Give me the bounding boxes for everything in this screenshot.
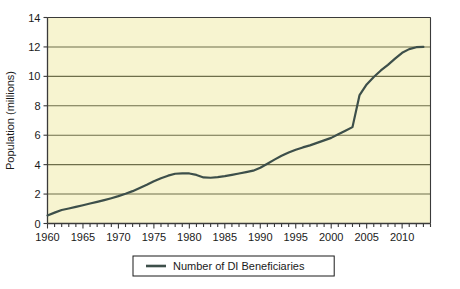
x-tick-label: 1985 (213, 231, 237, 243)
x-tick-label: 2010 (390, 231, 414, 243)
x-tick-label: 2000 (319, 231, 343, 243)
x-tick-label: 1995 (283, 231, 307, 243)
y-tick-label: 0 (34, 218, 40, 230)
line-chart: 02468101214 1960196519701975198019851990… (0, 0, 460, 289)
x-tick-label: 1980 (177, 231, 201, 243)
plot-area-background (48, 18, 431, 224)
x-tick-label: 1970 (106, 231, 130, 243)
x-tick-label: 1975 (142, 231, 166, 243)
y-tick-label: 4 (34, 159, 40, 171)
y-tick-label: 10 (28, 70, 40, 82)
x-tick-label: 1960 (35, 231, 59, 243)
y-tick-label: 8 (34, 100, 40, 112)
x-tick-label: 1965 (71, 231, 95, 243)
x-tick-label: 2005 (354, 231, 378, 243)
x-axis-tick-labels: 1960196519701975198019851990199520002005… (35, 231, 414, 243)
y-axis-title: Population (millions) (4, 71, 16, 170)
y-tick-label: 12 (28, 41, 40, 53)
chart-legend: Number of DI Beneficiaries (133, 256, 334, 276)
legend-item-label: Number of DI Beneficiaries (173, 260, 305, 272)
x-tick-label: 1990 (248, 231, 272, 243)
y-tick-label: 6 (34, 129, 40, 141)
y-tick-label: 2 (34, 188, 40, 200)
y-tick-label: 14 (28, 12, 40, 24)
chart-container: 02468101214 1960196519701975198019851990… (0, 0, 460, 289)
